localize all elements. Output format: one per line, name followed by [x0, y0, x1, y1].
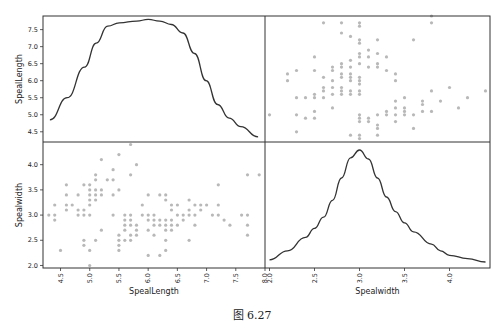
- scatter-point: [170, 229, 173, 232]
- scatter-point: [448, 86, 451, 89]
- scatter-point: [358, 25, 361, 28]
- x-tick-label: 5.0: [86, 273, 94, 283]
- scatter-point: [170, 203, 173, 206]
- scatter-point: [193, 224, 196, 227]
- scatter-point: [164, 193, 167, 196]
- scatter-point: [158, 254, 161, 257]
- scatter-point: [65, 183, 68, 186]
- scatter-point: [313, 117, 316, 120]
- scatter-point: [147, 193, 150, 196]
- kde-curve: [270, 150, 486, 262]
- x-tick-label: 6.5: [174, 273, 182, 283]
- scatter-point: [246, 234, 249, 237]
- scatter-point: [376, 113, 379, 116]
- scatter-point: [135, 224, 138, 227]
- scatter-point: [403, 106, 406, 109]
- scatter-point: [100, 158, 103, 161]
- scatter-point: [152, 234, 155, 237]
- panel-kde-speallength: [50, 19, 258, 136]
- scatter-point: [129, 234, 132, 237]
- scatter-point: [193, 214, 196, 217]
- scatter-point: [117, 234, 120, 237]
- y-tick-label: 3.5: [28, 186, 38, 194]
- x-tick-label: 2.0: [266, 273, 274, 283]
- scatter-point: [484, 89, 487, 92]
- scatter-point: [246, 214, 249, 217]
- scatter-point: [394, 100, 397, 103]
- scatter-point: [394, 120, 397, 123]
- scatter-point: [304, 117, 307, 120]
- y-tick-label: 7.0: [28, 43, 38, 51]
- scatter-point: [129, 173, 132, 176]
- scatter-point: [129, 224, 132, 227]
- scatter-point: [65, 193, 68, 196]
- scatter-point: [358, 134, 361, 137]
- scatter-point: [322, 96, 325, 99]
- scatter-point: [358, 76, 361, 79]
- scatter-point: [53, 214, 56, 217]
- scatter-point: [376, 127, 379, 130]
- scatter-point: [94, 239, 97, 242]
- scatter-point: [358, 113, 361, 116]
- scatter-point: [430, 21, 433, 24]
- scatter-point: [71, 203, 74, 206]
- scatter-point: [295, 69, 298, 72]
- scatter-point: [129, 239, 132, 242]
- scatter-point: [147, 229, 150, 232]
- scatter-point: [313, 93, 316, 96]
- scatter-point: [421, 103, 424, 106]
- scatter-point: [112, 178, 115, 181]
- scatter-point: [358, 117, 361, 120]
- scatter-point: [331, 79, 334, 82]
- scatter-point: [88, 183, 91, 186]
- scatter-point: [322, 89, 325, 92]
- scatter-point: [82, 239, 85, 242]
- scatter-point: [228, 224, 231, 227]
- scatter-point: [176, 214, 179, 217]
- scatter-point: [268, 113, 271, 116]
- scatter-point: [88, 249, 91, 252]
- scatter-matrix-figure: 4.55.05.56.06.57.07.52.02.53.03.54.04.55…: [0, 0, 504, 300]
- scatter-point: [466, 96, 469, 99]
- scatter-point: [82, 244, 85, 247]
- scatter-point: [394, 113, 397, 116]
- scatter-point: [286, 79, 289, 82]
- scatter-point: [152, 214, 155, 217]
- scatter-point: [94, 198, 97, 201]
- x-tick-label: 7.0: [203, 273, 211, 283]
- scatter-point: [65, 203, 68, 206]
- scatter-point: [164, 239, 167, 242]
- scatter-point: [322, 86, 325, 89]
- scatter-point: [77, 214, 80, 217]
- scatter-point: [412, 127, 415, 130]
- scatter-point: [135, 163, 138, 166]
- scatter-point: [394, 79, 397, 82]
- scatter-point: [164, 249, 167, 252]
- scatter-point: [176, 203, 179, 206]
- scatter-point: [394, 106, 397, 109]
- y-tick-label: 4.5: [28, 128, 38, 136]
- scatter-point: [313, 96, 316, 99]
- x-axis-label-left: SpealLength: [129, 287, 179, 296]
- scatter-point: [123, 214, 126, 217]
- scatter-point: [412, 113, 415, 116]
- scatter-point: [385, 69, 388, 72]
- scatter-point: [53, 219, 56, 222]
- scatter-point: [412, 38, 415, 41]
- scatter-point: [170, 224, 173, 227]
- scatter-point: [112, 214, 115, 217]
- scatter-point: [258, 173, 261, 176]
- scatter-point: [376, 52, 379, 55]
- scatter-point: [367, 55, 370, 58]
- scatter-point: [349, 93, 352, 96]
- scatter-point: [88, 214, 91, 217]
- scatter-point: [129, 214, 132, 217]
- x-tick-label: 7.5: [232, 273, 240, 283]
- scatter-point: [246, 173, 249, 176]
- scatter-point: [322, 76, 325, 79]
- scatter-point: [82, 214, 85, 217]
- scatter-point: [340, 72, 343, 75]
- scatter-point: [47, 214, 50, 217]
- scatter-point: [295, 96, 298, 99]
- scatter-point: [286, 72, 289, 75]
